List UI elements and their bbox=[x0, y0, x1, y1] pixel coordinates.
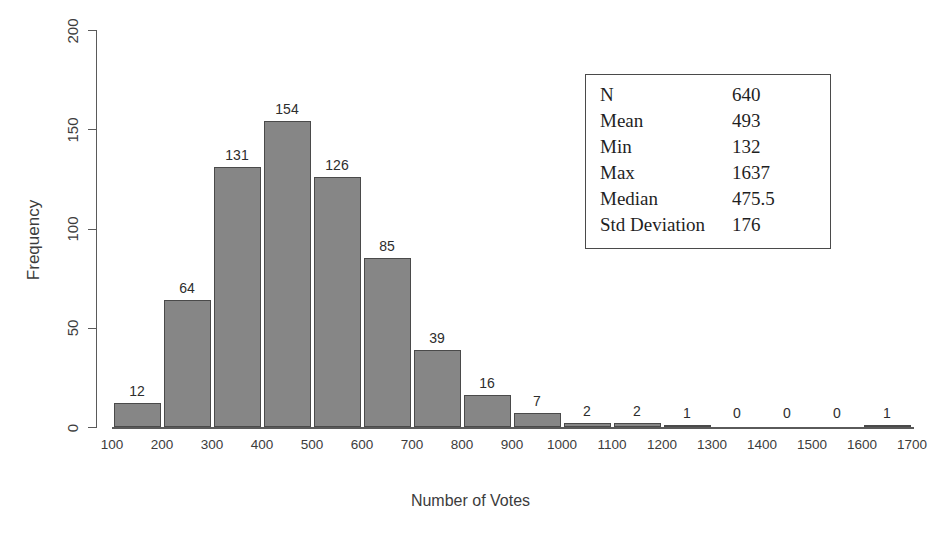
stats-row-value: 640 bbox=[732, 84, 761, 106]
bar-value-label: 131 bbox=[225, 147, 248, 163]
bar-value-label: 16 bbox=[479, 375, 495, 391]
y-tick-mark bbox=[88, 427, 97, 428]
y-tick-mark bbox=[88, 229, 97, 230]
histogram-bar bbox=[464, 395, 511, 427]
x-tick-label: 500 bbox=[301, 437, 324, 452]
stats-row-value: 475.5 bbox=[732, 188, 775, 210]
bar-value-label: 0 bbox=[733, 405, 741, 421]
bar-value-label: 154 bbox=[275, 101, 298, 117]
stats-summary-box: N640Mean493Min132Max1637Median475.5Std D… bbox=[585, 74, 831, 249]
bar-value-label: 39 bbox=[429, 330, 445, 346]
x-tick-label: 100 bbox=[101, 437, 124, 452]
x-tick-label: 1100 bbox=[597, 437, 626, 452]
y-axis-title-label: Frequency bbox=[24, 200, 44, 280]
x-tick-label: 1500 bbox=[797, 437, 827, 452]
bar-value-label: 1 bbox=[883, 405, 891, 421]
y-axis-title: Frequency bbox=[22, 180, 46, 300]
bar-value-label: 2 bbox=[583, 403, 591, 419]
stats-row-label: Mean bbox=[600, 110, 732, 132]
histogram-bar bbox=[364, 258, 411, 427]
stats-row: N640 bbox=[600, 84, 830, 110]
x-axis-title: Number of Votes bbox=[0, 492, 941, 510]
x-tick-label: 1700 bbox=[897, 437, 927, 452]
x-tick-label: 1400 bbox=[747, 437, 777, 452]
histogram-figure: Frequency 050100150200 12641311541268539… bbox=[0, 0, 941, 537]
bar-value-label: 2 bbox=[633, 403, 641, 419]
stats-row: Std Deviation176 bbox=[600, 214, 830, 240]
x-tick-label: 600 bbox=[351, 437, 374, 452]
stats-row-label: Std Deviation bbox=[600, 214, 732, 236]
x-tick-label: 900 bbox=[501, 437, 524, 452]
y-tick-label-text: 50 bbox=[64, 320, 81, 337]
y-tick-label-text: 0 bbox=[64, 423, 81, 431]
stats-row-label: Max bbox=[600, 162, 732, 184]
bar-value-label: 1 bbox=[683, 405, 691, 421]
y-tick-label-text: 200 bbox=[64, 18, 81, 43]
x-tick-label: 400 bbox=[251, 437, 274, 452]
bar-value-label: 126 bbox=[325, 157, 348, 173]
x-tick-label: 1200 bbox=[647, 437, 677, 452]
histogram-bar bbox=[514, 413, 561, 427]
y-tick-label: 150 bbox=[58, 129, 86, 130]
stats-row-label: N bbox=[600, 84, 732, 106]
y-tick-mark bbox=[88, 30, 97, 31]
y-tick-mark bbox=[88, 328, 97, 329]
stats-row-value: 176 bbox=[732, 214, 761, 236]
bar-value-label: 0 bbox=[783, 405, 791, 421]
y-tick-mark bbox=[88, 129, 97, 130]
bar-value-label: 64 bbox=[179, 280, 195, 296]
x-tick-label: 1300 bbox=[697, 437, 727, 452]
y-tick-label: 100 bbox=[58, 229, 86, 230]
x-tick-label: 200 bbox=[151, 437, 174, 452]
x-axis-line bbox=[112, 427, 914, 429]
stats-row-label: Min bbox=[600, 136, 732, 158]
stats-row: Min132 bbox=[600, 136, 830, 162]
bar-value-label: 7 bbox=[533, 393, 541, 409]
stats-row-label: Median bbox=[600, 188, 732, 210]
x-tick-label: 700 bbox=[401, 437, 424, 452]
x-axis-title-label: Number of Votes bbox=[411, 492, 530, 509]
stats-row: Mean493 bbox=[600, 110, 830, 136]
histogram-bar bbox=[264, 121, 311, 427]
y-tick-label: 0 bbox=[58, 427, 86, 428]
x-tick-label: 300 bbox=[201, 437, 224, 452]
y-tick-label: 200 bbox=[58, 30, 86, 31]
x-tick-label: 1600 bbox=[847, 437, 877, 452]
histogram-bar bbox=[214, 167, 261, 427]
stats-row: Max1637 bbox=[600, 162, 830, 188]
histogram-bar bbox=[164, 300, 211, 427]
x-tick-label: 1000 bbox=[547, 437, 577, 452]
y-tick-label-text: 100 bbox=[64, 216, 81, 241]
stats-row-value: 132 bbox=[732, 136, 761, 158]
y-tick-label-text: 150 bbox=[64, 117, 81, 142]
bar-value-label: 12 bbox=[129, 383, 145, 399]
stats-row-value: 493 bbox=[732, 110, 761, 132]
stats-row-value: 1637 bbox=[732, 162, 770, 184]
histogram-bar bbox=[114, 403, 161, 427]
bar-value-label: 85 bbox=[379, 238, 395, 254]
histogram-bar bbox=[314, 177, 361, 427]
x-tick-label: 800 bbox=[451, 437, 474, 452]
bar-value-label: 0 bbox=[833, 405, 841, 421]
y-tick-label: 50 bbox=[58, 328, 86, 329]
stats-row: Median475.5 bbox=[600, 188, 830, 214]
histogram-bar bbox=[414, 350, 461, 427]
